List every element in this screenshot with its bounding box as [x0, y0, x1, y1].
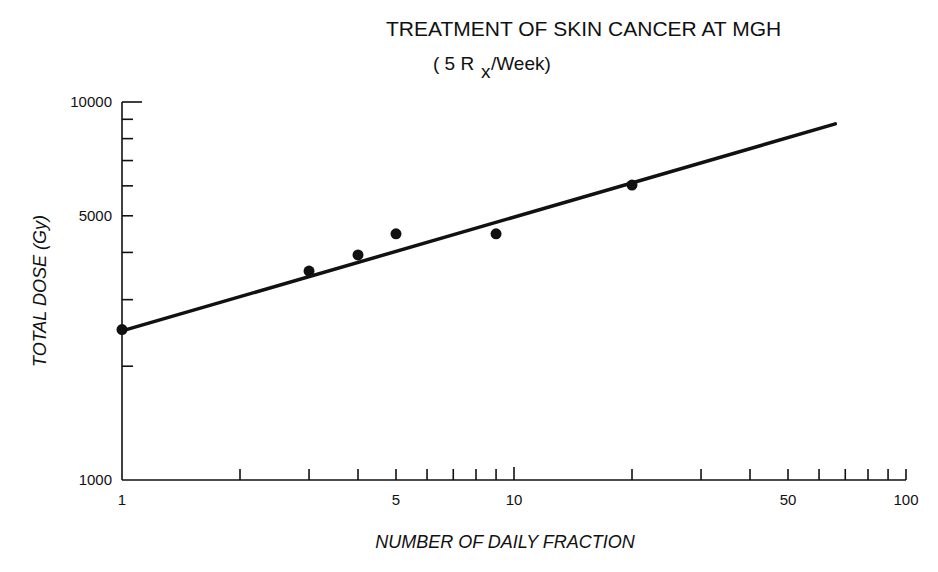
plot-area [117, 124, 836, 335]
x-tick-label: 10 [506, 491, 523, 508]
x-tick-label: 50 [780, 491, 797, 508]
fit-line [122, 124, 835, 331]
subtitle-prefix: ( 5 R [433, 53, 474, 74]
data-point [353, 249, 364, 260]
tick-labels: 1510501001000500010000 [70, 93, 918, 508]
x-axis-label: NUMBER OF DAILY FRACTION [375, 532, 636, 552]
data-point [390, 228, 401, 239]
chart-title: TREATMENT OF SKIN CANCER AT MGH [386, 17, 781, 40]
y-tick-label: 5000 [79, 207, 112, 224]
data-point [491, 228, 502, 239]
chart: TREATMENT OF SKIN CANCER AT MGH ( 5 R x … [0, 0, 938, 572]
x-tick-label: 100 [893, 491, 918, 508]
x-tick-label: 1 [118, 491, 126, 508]
y-tick-label: 10000 [70, 93, 112, 110]
subtitle-suffix: /Week) [491, 53, 551, 74]
axes [122, 102, 906, 480]
y-tick-label: 1000 [79, 471, 112, 488]
subtitle-subscript: x [481, 61, 491, 82]
x-tick-label: 5 [392, 491, 400, 508]
y-axis-label: TOTAL DOSE (Gy) [30, 215, 50, 367]
chart-subtitle: ( 5 R x /Week) [433, 53, 551, 82]
